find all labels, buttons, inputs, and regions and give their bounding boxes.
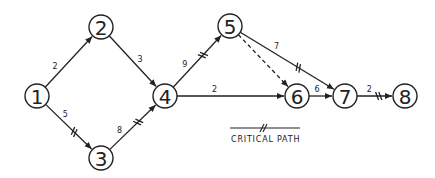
- node-label: 8: [399, 85, 412, 109]
- node-label: 1: [31, 85, 44, 109]
- edge-5-6: [238, 35, 288, 87]
- edge-duration-label: 2: [53, 62, 58, 71]
- edge-2-4: [109, 36, 156, 87]
- edge-1-3: [46, 104, 92, 149]
- node-4: 4: [153, 84, 177, 109]
- node-label: 6: [291, 85, 304, 109]
- legend-label: CRITICAL PATH: [231, 135, 300, 144]
- edge-duration-label: 2: [212, 85, 217, 94]
- node-label: 3: [95, 147, 108, 171]
- critical-tick-icon: [135, 119, 143, 123]
- node-5: 5: [218, 14, 242, 39]
- critical-tick-icon: [74, 129, 77, 137]
- critical-tick-icon: [200, 52, 208, 55]
- edge-duration-label: 3: [138, 55, 143, 64]
- edge-duration-label: 8: [117, 126, 122, 135]
- edge-duration-label: 5: [63, 110, 68, 119]
- node-6: 6: [285, 84, 309, 109]
- critical-tick-icon: [133, 121, 141, 125]
- edge-7-8: [357, 92, 392, 100]
- critical-tick-icon: [296, 63, 298, 71]
- node-1: 1: [25, 84, 49, 109]
- node-3: 3: [89, 146, 113, 171]
- edge-duration-label: 7: [274, 42, 279, 51]
- node-label: 2: [95, 16, 108, 40]
- network-diagram: 253892762 12345678 CRITICAL PATH: [0, 0, 435, 178]
- edge-duration-label: 2: [367, 85, 372, 94]
- legend: CRITICAL PATH: [230, 124, 300, 144]
- node-label: 5: [224, 15, 237, 39]
- edge-duration-label: 9: [182, 60, 187, 69]
- node-label: 4: [159, 85, 172, 109]
- critical-tick-icon: [299, 64, 301, 72]
- node-8: 8: [393, 84, 417, 109]
- edge-duration-label: 6: [315, 85, 320, 94]
- node-label: 7: [339, 85, 352, 109]
- edge-4-5: [173, 36, 221, 88]
- node-2: 2: [89, 15, 113, 40]
- critical-tick-icon: [198, 55, 206, 58]
- critical-tick-icon: [71, 127, 74, 135]
- node-7: 7: [333, 84, 357, 109]
- edge-5-7: [240, 32, 334, 89]
